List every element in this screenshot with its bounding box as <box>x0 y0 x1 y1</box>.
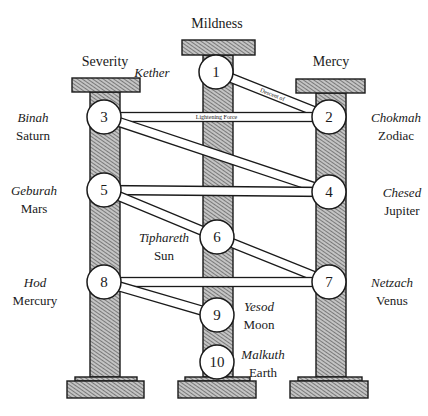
sephirah-name: Geburah <box>11 183 57 198</box>
path-label: Lightening Force <box>196 114 238 120</box>
sephirah-1: 1 <box>199 55 233 89</box>
sephirah-name: Tiphareth <box>139 230 189 245</box>
sephirah-number: 4 <box>325 184 333 200</box>
pillar-title-center: Mildness <box>191 16 242 31</box>
pillar-title-right: Mercy <box>313 54 350 69</box>
sephirah-8: 8 <box>87 265 121 299</box>
tree-of-life-diagram: SeverityMildnessMercy Descent ofLighteni… <box>0 0 428 416</box>
sephirah-name: Chokmah <box>371 110 421 125</box>
sephirah-name: Malkuth <box>240 347 284 362</box>
sephirah-planet: Saturn <box>16 128 50 143</box>
sephirah-planet: Jupiter <box>384 203 420 218</box>
sephirah-6: 6 <box>200 220 234 254</box>
sephirah-name: Hod <box>23 275 47 290</box>
pillar-right-shaft <box>316 93 346 377</box>
pillar-right-cap <box>296 79 365 93</box>
sephirah-9: 9 <box>200 298 234 332</box>
sephirah-label-1: Kether <box>133 65 170 80</box>
sephirah-number: 10 <box>210 354 225 370</box>
sephirah-name: Netzach <box>370 275 413 290</box>
sephirah-label-5: GeburahMars <box>11 183 57 216</box>
sephirah-number: 2 <box>325 109 333 125</box>
sephirah-number: 5 <box>100 182 108 198</box>
sephirah-planet: Zodiac <box>378 128 414 143</box>
pillar-left-shaft <box>90 92 120 377</box>
pillar-center-cap <box>182 40 255 55</box>
sephirah-10: 10 <box>200 345 234 379</box>
sephirah-label-6: TipharethSun <box>139 230 189 263</box>
sephirah-number: 7 <box>325 274 333 290</box>
sephirah-name: Kether <box>133 65 170 80</box>
sephirah-planet: Mars <box>21 201 48 216</box>
path-4-5 <box>104 186 329 197</box>
sephirah-label-2: ChokmahZodiac <box>371 110 421 143</box>
pillar-center-base <box>178 381 256 398</box>
sephirah-label-8: HodMercury <box>13 275 58 308</box>
sephirah-3: 3 <box>87 100 121 134</box>
sephirah-label-3: BinahSaturn <box>16 110 50 143</box>
sephirah-planet: Moon <box>243 317 275 332</box>
sephirah-4: 4 <box>312 175 346 209</box>
sephirah-5: 5 <box>87 173 121 207</box>
pillar-right-base <box>290 381 368 398</box>
sephirah-planet: Venus <box>376 293 408 308</box>
sephirah-planet: Mercury <box>13 293 58 308</box>
sephirah-7: 7 <box>312 265 346 299</box>
sephirah-name: Chesed <box>383 185 422 200</box>
sephirah-number: 1 <box>212 64 220 80</box>
sephirah-planet: Sun <box>154 248 175 263</box>
pillar-left-base <box>67 381 144 398</box>
sephirah-label-7: NetzachVenus <box>370 275 413 308</box>
sephirah-label-4: ChesedJupiter <box>383 185 422 218</box>
sephirah-planet: Earth <box>249 365 278 380</box>
sephirah-number: 3 <box>100 109 108 125</box>
sephirah-2: 2 <box>312 100 346 134</box>
pillar-left-cap <box>72 78 140 92</box>
sephirah-label-9: YesodMoon <box>243 299 275 332</box>
sephirah-label-10: MalkuthEarth <box>240 347 284 380</box>
path-2-3: Lightening Force <box>104 113 329 122</box>
sephirah-name: Binah <box>17 110 48 125</box>
path-7-8 <box>104 278 329 287</box>
sephirah-name: Yesod <box>244 299 274 314</box>
pillar-title-left: Severity <box>82 54 129 69</box>
sephirah-number: 8 <box>100 274 108 290</box>
diagram-canvas: SeverityMildnessMercy Descent ofLighteni… <box>0 0 428 416</box>
sephirah-number: 6 <box>213 229 221 245</box>
sephirah-number: 9 <box>213 307 221 323</box>
